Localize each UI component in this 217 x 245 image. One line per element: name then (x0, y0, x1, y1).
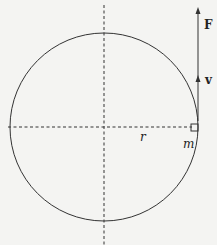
force-arrowhead-icon (196, 7, 201, 14)
radius-label: r (140, 131, 146, 143)
force-label: F (204, 19, 213, 31)
circular-motion-diagram (0, 0, 217, 245)
mass-block (191, 124, 198, 131)
mass-label: m (183, 138, 194, 150)
velocity-arrowhead-icon (196, 75, 201, 82)
velocity-label: v (205, 74, 212, 86)
